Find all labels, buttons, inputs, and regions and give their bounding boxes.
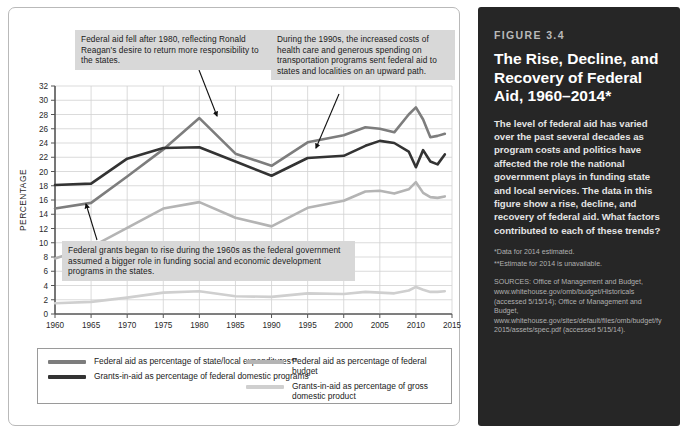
x-tick-label: 1975: [154, 321, 173, 330]
y-tick-label: 22: [39, 153, 49, 162]
annotation-nineties: During the 1990s, the increased costs of…: [271, 30, 455, 80]
legend-swatch-icon: [48, 375, 86, 379]
series-line-state_local: [55, 107, 445, 208]
figure-sources: SOURCES: Office of Management and Budget…: [494, 278, 664, 336]
y-tick-label: 12: [39, 225, 49, 234]
y-tick-label: 26: [39, 125, 49, 134]
figure-note-2: **Estimate for 2014 is unavailable.: [494, 260, 664, 270]
figure-root: 0246810121416182022242628303219601965197…: [0, 0, 688, 435]
x-tick-label: 2000: [335, 321, 354, 330]
annotation-grants: Federal grants began to rise during the …: [62, 241, 355, 281]
legend-item-label: Federal aid as percentage of federal bud…: [292, 356, 451, 376]
chart-card: 0246810121416182022242628303219601965197…: [8, 7, 460, 426]
legend-item: Grants-in-aid as percentage of gross dom…: [246, 381, 451, 401]
leader-arrow-reagan: [199, 70, 217, 116]
x-tick-label: 1995: [299, 321, 318, 330]
x-tick-label: 1980: [190, 321, 209, 330]
series-line-gdp: [55, 287, 445, 303]
legend-item-label: Grants-in-aid as percentage of gross dom…: [292, 381, 451, 401]
legend-item: Federal aid as percentage of federal bud…: [246, 356, 451, 376]
x-tick-label: 1985: [226, 321, 245, 330]
x-tick-label: 1960: [46, 321, 65, 330]
y-tick-label: 20: [39, 168, 49, 177]
legend-swatch-icon: [246, 385, 284, 389]
x-tick-label: 1990: [262, 321, 281, 330]
figure-note-1: *Data for 2014 estimated.: [494, 248, 664, 258]
x-tick-label: 2010: [407, 321, 426, 330]
y-axis-title: PERCENTAGE: [18, 169, 28, 231]
figure-title: The Rise, Decline, and Recovery of Feder…: [494, 50, 664, 106]
y-tick-label: 0: [43, 310, 48, 319]
x-tick-label: 1970: [118, 321, 137, 330]
y-tick-label: 24: [39, 139, 49, 148]
x-tick-label: 2005: [371, 321, 390, 330]
y-tick-label: 10: [39, 239, 49, 248]
y-tick-label: 28: [39, 111, 49, 120]
y-tick-label: 4: [43, 282, 48, 291]
y-tick-label: 8: [43, 253, 48, 262]
series-line-federal_domestic: [55, 141, 445, 185]
figure-number: FIGURE 3.4: [494, 29, 664, 41]
leader-arrow-grants: [86, 204, 97, 240]
y-tick-label: 30: [39, 96, 49, 105]
x-tick-label: 1965: [82, 321, 101, 330]
y-tick-label: 16: [39, 196, 49, 205]
annotation-reagan: Federal aid fell after 1980, reflecting …: [75, 30, 271, 70]
leader-arrow-nineties: [316, 94, 339, 148]
chart-legend: Federal aid as percentage of state/local…: [37, 348, 452, 404]
figure-info-panel: FIGURE 3.4 The Rise, Decline, and Recove…: [478, 7, 680, 426]
y-tick-label: 6: [43, 267, 48, 276]
legend-column-right: Federal aid as percentage of federal bud…: [246, 356, 451, 406]
y-tick-label: 2: [43, 296, 48, 305]
y-tick-label: 32: [39, 82, 49, 91]
legend-swatch-icon: [48, 360, 86, 364]
y-tick-label: 18: [39, 182, 49, 191]
x-tick-label: 2015: [443, 321, 461, 330]
figure-description: The level of federal aid has varied over…: [494, 117, 664, 238]
legend-swatch-icon: [246, 360, 284, 364]
y-tick-label: 14: [39, 210, 49, 219]
